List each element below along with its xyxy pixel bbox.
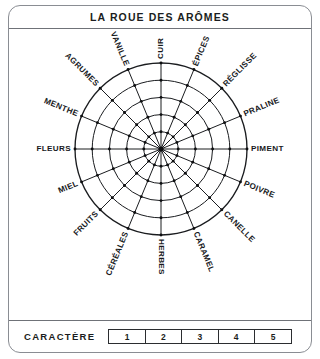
wheel-node[interactable] — [147, 160, 150, 163]
aroma-label-miel: MIEL — [57, 179, 80, 195]
aroma-label-praline: PRALINE — [242, 95, 281, 118]
scale-box-2[interactable]: 2 — [146, 330, 182, 343]
wheel-node[interactable] — [146, 116, 149, 119]
wheel-node[interactable] — [160, 165, 163, 168]
wheel-node[interactable] — [74, 148, 77, 151]
wheel-node[interactable] — [160, 96, 163, 99]
wheel-node[interactable] — [175, 154, 178, 157]
wheel-node[interactable] — [128, 134, 131, 137]
wheel-node[interactable] — [111, 196, 114, 199]
wheel-node[interactable] — [186, 211, 189, 214]
wheel-node[interactable] — [128, 161, 131, 164]
aroma-label-r-glisse: RÉGLISSE — [221, 51, 258, 88]
wheel-node[interactable] — [127, 227, 130, 230]
wheel-node[interactable] — [80, 115, 83, 118]
wheel-node[interactable] — [194, 148, 197, 151]
wheel-node[interactable] — [228, 148, 231, 151]
wheel-node[interactable] — [192, 227, 195, 230]
wheel-node[interactable] — [123, 184, 126, 187]
wheel-node[interactable] — [196, 111, 199, 114]
wheel-node[interactable] — [173, 116, 176, 119]
wheel-node[interactable] — [166, 132, 169, 135]
wheel-node[interactable] — [207, 167, 210, 170]
scale-box-3[interactable]: 3 — [182, 330, 218, 343]
wheel-node[interactable] — [108, 148, 111, 151]
wheel-node[interactable] — [208, 99, 211, 102]
wheel-node[interactable] — [125, 148, 128, 151]
wheel-node[interactable] — [111, 99, 114, 102]
wheel-node[interactable] — [142, 148, 145, 151]
wheel-node[interactable] — [99, 208, 102, 211]
wheel-node[interactable] — [175, 141, 178, 144]
wheel-node[interactable] — [211, 148, 214, 151]
wheel-node[interactable] — [146, 179, 149, 182]
wheel-node[interactable] — [192, 68, 195, 71]
wheel-node[interactable] — [179, 195, 182, 198]
wheel-node[interactable] — [140, 195, 143, 198]
wheel-node[interactable] — [133, 211, 136, 214]
wheel-node[interactable] — [112, 128, 115, 131]
wheel-node[interactable] — [80, 180, 83, 183]
wheel-node[interactable] — [96, 174, 99, 177]
wheel-node[interactable] — [166, 163, 169, 166]
wheel-node[interactable] — [173, 179, 176, 182]
wheel-node[interactable] — [153, 132, 156, 135]
scale-box-1[interactable]: 1 — [109, 330, 145, 343]
wheel-node[interactable] — [239, 115, 242, 118]
wheel-node[interactable] — [186, 84, 189, 87]
scale-box-4[interactable]: 4 — [219, 330, 255, 343]
wheel-node[interactable] — [220, 87, 223, 90]
aroma-label--pices: ÉPICES — [191, 34, 212, 67]
wheel-spoke-14 — [100, 88, 161, 149]
wheel-node[interactable] — [135, 172, 138, 175]
aroma-wheel-chart: CUIRÉPICESRÉGLISSEPRALINEPIMENTPOIVRECAN… — [9, 29, 311, 320]
wheel-node[interactable] — [191, 134, 194, 137]
caractere-label: CARACTÈRE — [24, 331, 95, 342]
wheel-node[interactable] — [144, 154, 147, 157]
wheel-node[interactable] — [127, 68, 130, 71]
scale-box-5[interactable]: 5 — [255, 330, 291, 343]
page-title: LA ROUE DES ARÔMES — [90, 11, 230, 23]
wheel-node[interactable] — [223, 121, 226, 124]
wheel-node[interactable] — [179, 100, 182, 103]
wheel-node[interactable] — [172, 135, 175, 138]
wheel-spoke-6 — [161, 149, 222, 210]
wheel-node[interactable] — [160, 234, 163, 237]
wheel-node[interactable] — [208, 196, 211, 199]
aroma-label-canelle: CANELLE — [222, 209, 257, 244]
aroma-label-herbes: HERBES — [157, 239, 166, 275]
wheel-node[interactable] — [184, 123, 187, 126]
wheel-node[interactable] — [160, 130, 163, 133]
wheel-node[interactable] — [160, 79, 163, 82]
wheel-node[interactable] — [112, 167, 115, 170]
wheel-node[interactable] — [140, 100, 143, 103]
wheel-node[interactable] — [177, 148, 180, 151]
card-footer: CARACTÈRE 12345 — [9, 320, 311, 352]
wheel-node[interactable] — [135, 123, 138, 126]
wheel-node[interactable] — [160, 182, 163, 185]
wheel-node[interactable] — [246, 148, 249, 151]
wheel-node[interactable] — [160, 199, 163, 202]
wheel-node[interactable] — [220, 208, 223, 211]
wheel-node[interactable] — [196, 184, 199, 187]
wheel-node[interactable] — [191, 161, 194, 164]
wheel-node[interactable] — [223, 174, 226, 177]
wheel-node[interactable] — [133, 84, 136, 87]
wheel-node[interactable] — [153, 163, 156, 166]
wheel-stage: CUIRÉPICESRÉGLISSEPRALINEPIMENTPOIVRECAN… — [9, 29, 311, 320]
wheel-node[interactable] — [99, 87, 102, 90]
wheel-node[interactable] — [160, 216, 163, 219]
wheel-node[interactable] — [96, 121, 99, 124]
wheel-node[interactable] — [239, 180, 242, 183]
wheel-node[interactable] — [207, 128, 210, 131]
wheel-node[interactable] — [172, 160, 175, 163]
wheel-node[interactable] — [160, 113, 163, 116]
wheel-node[interactable] — [160, 62, 163, 65]
wheel-node[interactable] — [144, 141, 147, 144]
aroma-label-vanille: VANILLE — [109, 30, 131, 67]
wheel-node[interactable] — [123, 111, 126, 114]
caractere-scale: 12345 — [108, 329, 292, 344]
wheel-node[interactable] — [91, 148, 94, 151]
wheel-node[interactable] — [184, 172, 187, 175]
wheel-node[interactable] — [147, 135, 150, 138]
